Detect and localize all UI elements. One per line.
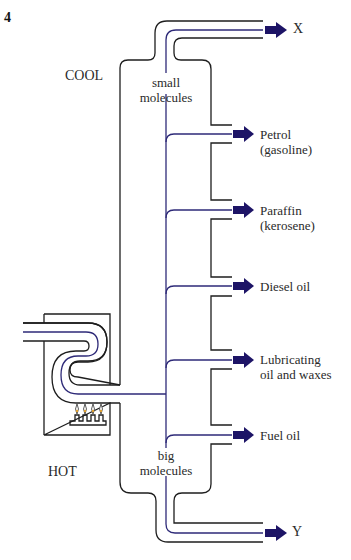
arrow-y-icon xyxy=(265,525,287,541)
small-molecules-line2: molecules xyxy=(131,90,201,105)
big-molecules-line2: molecules xyxy=(131,463,201,478)
fraction-petrol: Petrol (gasoline) xyxy=(260,127,312,157)
burner-icon xyxy=(70,404,106,425)
fraction-petrol-name: Petrol xyxy=(260,127,312,142)
top-outlet-pipe xyxy=(120,21,287,125)
arrow-diesel-icon xyxy=(233,278,254,294)
fraction-lubricating: Lubricating oil and waxes xyxy=(260,352,331,382)
fraction-paraffin-alt: (kerosene) xyxy=(260,218,315,233)
furnace xyxy=(23,314,166,435)
arrow-petrol-icon xyxy=(233,126,254,142)
fraction-fuel-oil-name: Fuel oil xyxy=(260,428,300,443)
fraction-lubricating-name: Lubricating xyxy=(260,352,331,367)
arrow-lubricating-icon xyxy=(233,352,254,368)
arrow-x-icon xyxy=(265,22,287,38)
hot-label: HOT xyxy=(48,464,77,479)
big-molecules-label: big molecules xyxy=(131,448,201,478)
fraction-diesel-name: Diesel oil xyxy=(260,279,310,294)
small-molecules-line1: small xyxy=(131,75,201,90)
fraction-diesel: Diesel oil xyxy=(260,279,310,294)
fraction-lubricating-alt: oil and waxes xyxy=(260,367,331,382)
product-x-label: X xyxy=(293,21,303,36)
question-number: 4 xyxy=(4,10,11,25)
big-molecules-line1: big xyxy=(131,448,201,463)
fraction-fuel-oil: Fuel oil xyxy=(260,428,300,443)
product-y-label: Y xyxy=(292,524,302,539)
fraction-paraffin: Paraffin (kerosene) xyxy=(260,203,315,233)
fraction-arrows xyxy=(233,126,254,443)
small-molecules-label: small molecules xyxy=(131,75,201,105)
arrow-fuel-oil-icon xyxy=(233,427,254,443)
arrow-paraffin-icon xyxy=(233,202,254,218)
cool-label: COOL xyxy=(65,68,103,83)
fraction-paraffin-name: Paraffin xyxy=(260,203,315,218)
fraction-petrol-alt: (gasoline) xyxy=(260,142,312,157)
